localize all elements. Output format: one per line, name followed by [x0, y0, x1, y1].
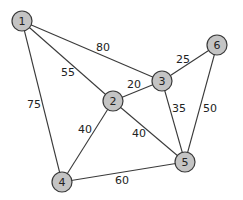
node-label: 5: [182, 156, 189, 169]
node-label: 4: [59, 176, 66, 189]
edge-1-2: [22, 21, 113, 101]
node-label: 6: [214, 39, 221, 52]
weighted-graph-diagram: 80557520404025355060 123456: [0, 0, 243, 200]
edge-weight-label: 80: [96, 41, 110, 54]
nodes-group: 123456: [12, 11, 227, 192]
edge-weight-label: 75: [27, 98, 41, 111]
edge-weight-label: 35: [172, 102, 186, 115]
node-5: 5: [175, 152, 195, 172]
edge-weight-label: 25: [176, 53, 190, 66]
node-4: 4: [52, 172, 72, 192]
edge-weight-label: 20: [127, 78, 141, 91]
edge-weight-label: 60: [115, 174, 129, 187]
edge-1-3: [22, 21, 162, 81]
edge-3-5: [162, 81, 185, 162]
edge-weight-label: 55: [61, 66, 75, 79]
edge-weight-label: 40: [78, 123, 92, 136]
node-6: 6: [207, 35, 227, 55]
edge-weight-label: 50: [203, 102, 217, 115]
edge-weight-label: 40: [132, 127, 146, 140]
node-3: 3: [152, 71, 172, 91]
edge-2-4: [62, 101, 113, 182]
node-label: 3: [159, 75, 166, 88]
node-2: 2: [103, 91, 123, 111]
node-label: 2: [110, 95, 117, 108]
node-label: 1: [19, 15, 26, 28]
node-1: 1: [12, 11, 32, 31]
